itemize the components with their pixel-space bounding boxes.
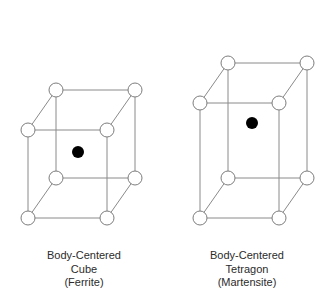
crystal-structure-figure: Body-Centered Cube (Ferrite) Body-Center… — [0, 0, 328, 302]
caption-line-3: (Ferrite) — [0, 276, 168, 290]
corner-atom — [49, 83, 63, 97]
caption-line-1: Body-Centered — [166, 249, 328, 263]
body-centered-tetragon-lattice — [193, 56, 314, 225]
corner-atom — [193, 96, 207, 110]
corner-atom — [21, 211, 35, 225]
corner-atom — [300, 171, 314, 185]
corner-atom — [49, 171, 63, 185]
corner-atom — [128, 83, 142, 97]
body-centered-cube-lattice — [21, 83, 142, 225]
corner-atom — [100, 211, 114, 225]
caption-body-centered-cube: Body-Centered Cube (Ferrite) — [0, 249, 168, 290]
center-atom — [246, 117, 258, 129]
caption-line-2: Tetragon — [166, 263, 328, 277]
center-atom — [72, 146, 84, 158]
caption-line-2: Cube — [0, 263, 168, 277]
corner-atom — [272, 96, 286, 110]
caption-body-centered-tetragon: Body-Centered Tetragon (Martensite) — [166, 249, 328, 290]
corner-atom — [221, 171, 235, 185]
corner-atom — [128, 171, 142, 185]
corner-atom — [193, 211, 207, 225]
corner-atom — [221, 56, 235, 70]
corner-atom — [272, 211, 286, 225]
caption-line-3: (Martensite) — [166, 276, 328, 290]
corner-atom — [21, 123, 35, 137]
corner-atom — [100, 123, 114, 137]
corner-atom — [300, 56, 314, 70]
caption-line-1: Body-Centered — [0, 249, 168, 263]
